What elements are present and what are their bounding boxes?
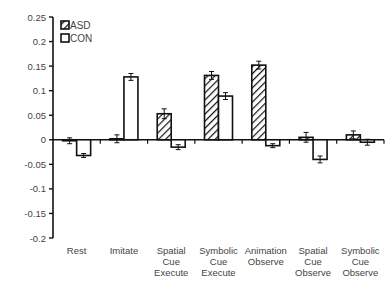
y-tick-label: -0.1 xyxy=(30,183,46,194)
legend-swatch-asd xyxy=(61,21,69,29)
x-tick-label: Symbolic xyxy=(199,245,238,256)
x-tick-label: Observe xyxy=(295,267,331,278)
legend-label-con: CON xyxy=(70,33,92,44)
y-axis: 0.250.20.150.10.050-0.05-0.1-0.15-0.2 xyxy=(24,12,53,244)
y-tick-label: 0 xyxy=(41,134,46,145)
legend-label-asd: ASD xyxy=(70,20,91,31)
x-tick-label: Observe xyxy=(342,267,378,278)
y-tick-label: 0.05 xyxy=(28,110,47,121)
x-tick-label: Animation xyxy=(245,245,287,256)
y-tick-label: -0.05 xyxy=(24,159,46,170)
x-tick-label: Execute xyxy=(201,267,235,278)
legend-swatch-con xyxy=(61,34,69,42)
x-tick-label: Observe xyxy=(248,256,284,267)
y-tick-label: -0.2 xyxy=(30,233,46,244)
y-tick-label: 0.25 xyxy=(28,12,47,23)
x-tick-label: Symbolic xyxy=(341,245,380,256)
x-tick-label: Cue xyxy=(162,256,179,267)
legend: ASD CON xyxy=(61,20,92,44)
bar-asd xyxy=(205,75,219,139)
x-tick-label: Cue xyxy=(352,256,369,267)
bar-asd xyxy=(252,65,266,140)
x-axis-labels: RestImitateSpatialCueExecuteSymbolicCueE… xyxy=(67,245,380,278)
x-tick-label: Imitate xyxy=(110,245,139,256)
x-tick-label: Cue xyxy=(210,256,227,267)
y-tick-label: 0.1 xyxy=(33,85,46,96)
bar-chart: 0.250.20.150.10.050-0.05-0.1-0.15-0.2 Re… xyxy=(0,0,386,289)
bar-con xyxy=(219,96,233,140)
x-tick-label: Execute xyxy=(154,267,188,278)
x-tick-label: Cue xyxy=(304,256,321,267)
y-tick-label: 0.2 xyxy=(33,36,46,47)
y-tick-label: -0.15 xyxy=(24,208,46,219)
bar-con xyxy=(124,77,138,140)
x-tick-label: Spatial xyxy=(299,245,328,256)
bars-layer xyxy=(53,61,384,163)
x-tick-label: Spatial xyxy=(157,245,186,256)
y-tick-label: 0.15 xyxy=(28,61,47,72)
x-tick-label: Rest xyxy=(67,245,87,256)
